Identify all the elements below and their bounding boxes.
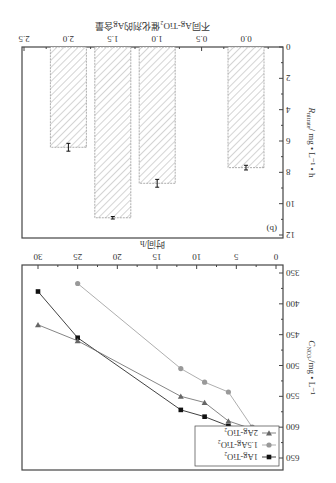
x-tick-label: 2.5 [18,34,30,44]
x-tick-label: 25 [73,252,83,262]
legend: 1Ag-TiO₂1.5Ag-TiO₂2Ag-TiO₂ [195,426,279,466]
y-tick-label: 2 [286,73,291,83]
x-tick-label: 20 [112,252,122,262]
legend-item: 1Ag-TiO₂ [224,452,258,462]
y-tick-label: 400 [286,299,300,309]
y-axis-title: CNO3-/mg • L⁻¹ [306,340,317,395]
x-tick-label: 2.0 [62,34,74,44]
y-tick-label: 650 [286,453,300,463]
y-axis-title: Rnitrate/ mg • L⁻¹ • h [306,107,317,178]
y-tick-label: 0 [286,42,291,52]
y-tick-label: 500 [286,361,300,371]
panel-b-bar-chart: 0.00.51.01.52.02.5024681012不同Ag-TiO₂催化剂的… [18,21,317,240]
y-tick-label: 450 [286,330,300,340]
bar-1.5 [95,47,131,219]
y-tick-label: 600 [286,422,300,432]
x-tick-label: 1.5 [107,34,119,44]
figure: 051015202530350400450500550600650时间/hCNO… [0,0,336,483]
y-tick-label: 4 [286,105,291,115]
panel-a-line-chart: 051015202530350400450500550600650时间/hCNO… [22,239,317,470]
y-tick-label: 12 [286,230,295,240]
y-tick-label: 550 [286,391,300,401]
legend-item: 1.5Ag-TiO₂ [218,440,258,450]
x-tick-label: 5 [234,252,239,262]
panel-label: (b) [267,224,278,234]
x-tick-label: 0 [273,252,278,262]
x-tick-label: 0.5 [195,34,207,44]
y-tick-label: 8 [286,167,291,177]
bar-2.0 [50,47,86,151]
y-tick-label: 6 [286,136,291,146]
x-tick-label: 10 [192,252,202,262]
y-tick-label: 350 [286,268,300,278]
x-tick-label: 0.0 [240,34,252,44]
bar-1.0 [139,47,175,187]
legend-item: 2Ag-TiO₂ [224,428,258,438]
x-tick-label: 30 [33,252,43,262]
y-tick-label: 10 [286,199,296,209]
bar-0.0 [228,47,264,170]
x-tick-label: 15 [152,252,162,262]
x-axis-title: 时间/h [140,239,166,250]
x-axis-title: 不同Ag-TiO₂催化剂的Ag含量 [95,21,209,32]
x-tick-label: 1.0 [151,34,163,44]
